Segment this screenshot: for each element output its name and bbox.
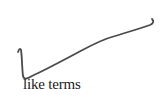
caption-text: like terms: [23, 75, 81, 93]
ink-stroke-path: [18, 19, 153, 79]
